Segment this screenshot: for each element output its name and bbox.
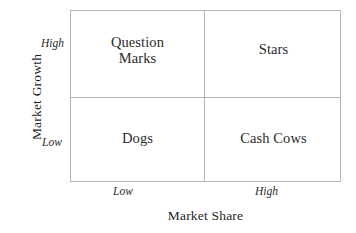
quadrant-cash-cows: Cash Cows	[205, 98, 342, 183]
x-axis-title: Market Share	[70, 208, 341, 224]
quadrant-label-cash-cows: Cash Cows	[240, 130, 307, 146]
bcg-growth-share-matrix: Market Growth High Low Question Marks St…	[0, 0, 356, 233]
quadrant-label-question-marks: Question Marks	[111, 34, 164, 66]
x-axis-tick-high: High	[255, 185, 278, 197]
matrix-plot-area: Question Marks Stars Dogs Cash Cows	[70, 10, 341, 182]
quadrant-stars: Stars	[205, 11, 342, 97]
y-axis-tick-low: Low	[42, 136, 62, 148]
quadrant-label-dogs: Dogs	[122, 130, 153, 146]
quadrant-label-stars: Stars	[259, 41, 289, 57]
quadrant-dogs: Dogs	[71, 98, 204, 183]
x-axis-tick-low: Low	[113, 185, 133, 197]
quadrant-question-marks: Question Marks	[71, 11, 204, 97]
y-axis-tick-high: High	[41, 37, 64, 49]
